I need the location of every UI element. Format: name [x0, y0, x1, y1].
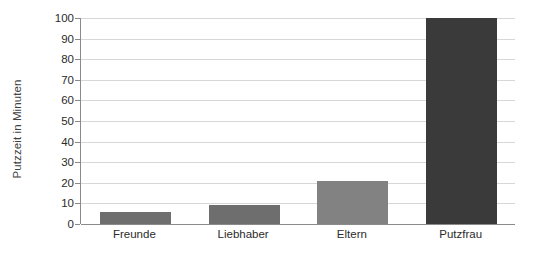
- y-tick-mark-0: [75, 224, 80, 225]
- bar-liebhaber: [209, 205, 280, 224]
- y-tick-label-40: 40: [61, 136, 74, 148]
- bar-eltern: [317, 181, 388, 224]
- y-axis-title: Putzzeit in Minuten: [0, 0, 34, 258]
- y-tick-label-60: 60: [61, 94, 74, 106]
- y-tick-label-10: 10: [61, 197, 74, 209]
- y-tick-label-90: 90: [61, 33, 74, 45]
- y-tick-label-50: 50: [61, 115, 74, 127]
- x-axis-category-labels: FreundeLiebhaberElternPutzfrau: [80, 228, 515, 250]
- y-axis-tick-labels: 0102030405060708090100: [44, 18, 74, 224]
- bar-freunde: [100, 212, 171, 224]
- y-tick-label-30: 30: [61, 156, 74, 168]
- y-tick-label-80: 80: [61, 53, 74, 65]
- x-label-liebhaber: Liebhaber: [218, 228, 269, 240]
- bar-chart: Putzzeit in Minuten 01020304050607080901…: [0, 0, 536, 258]
- bar-putzfrau: [426, 18, 497, 224]
- x-label-freunde: Freunde: [113, 228, 156, 240]
- x-label-eltern: Eltern: [337, 228, 367, 240]
- gridline-0: [81, 224, 515, 225]
- y-tick-label-0: 0: [68, 218, 74, 230]
- y-tick-label-100: 100: [55, 12, 74, 24]
- bars-layer: [81, 18, 515, 224]
- x-label-putzfrau: Putzfrau: [439, 228, 482, 240]
- y-tick-label-20: 20: [61, 177, 74, 189]
- plot-area: [80, 18, 515, 224]
- y-tick-label-70: 70: [61, 74, 74, 86]
